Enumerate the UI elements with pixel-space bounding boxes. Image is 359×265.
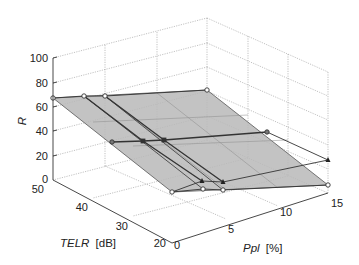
svg-text:30: 30 (116, 220, 128, 232)
z-axis-label: R (16, 117, 28, 125)
svg-text:80: 80 (36, 77, 48, 89)
svg-text:0: 0 (174, 239, 180, 251)
3d-surface-chart: 100 80 60 40 20 0 50 40 30 20 0 5 10 15 … (0, 0, 359, 265)
svg-text:20: 20 (36, 150, 48, 162)
svg-text:100: 100 (30, 52, 48, 64)
svg-text:40: 40 (36, 125, 48, 137)
svg-text:40: 40 (76, 201, 88, 213)
svg-text:50: 50 (32, 183, 44, 195)
svg-text:15: 15 (331, 197, 343, 209)
z-tick-labels: 100 80 60 40 20 0 (30, 52, 48, 185)
svg-text:60: 60 (36, 101, 48, 113)
x-axis-label: Ppl [%] (243, 242, 282, 254)
svg-text:10: 10 (280, 206, 292, 218)
svg-text:20: 20 (154, 237, 166, 249)
svg-text:5: 5 (228, 223, 234, 235)
y-axis-label: TELR [dB] (60, 237, 116, 249)
